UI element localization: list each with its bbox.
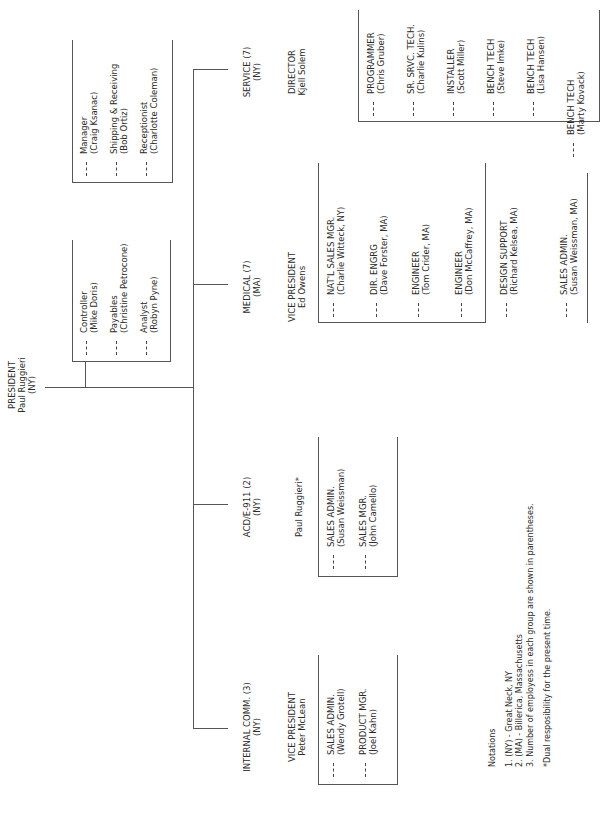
staff-entry: ENGINEER(Tom Crider, MA) (412, 224, 432, 317)
staff-entry: ENGINEER(Don McCaffrey, MA) (455, 207, 475, 317)
staff-entry: INSTALLER(Scott Miller) (447, 40, 467, 116)
division-location: (NY) (253, 17, 263, 127)
division-spine (193, 69, 194, 729)
dash-marker (146, 162, 147, 176)
division-location: (NY) (253, 452, 263, 562)
branch-acd (193, 504, 228, 505)
division-service-box (358, 10, 600, 122)
division-acd-header: ACD/E-911 (2) (NY) (243, 452, 263, 562)
president-location: (NY) (28, 345, 38, 425)
division-medical-head: VICE PRESIDENT Ed Owens (288, 232, 308, 342)
staff-entry: Receptionist(Charlotte Coleman) (140, 68, 160, 176)
staff-entry: PROGRAMMER(Chris Gruber) (367, 32, 387, 116)
notations-title: Notations (488, 503, 497, 767)
dash-marker (573, 143, 574, 157)
dash-marker (333, 555, 334, 569)
staff-entry: BENCH TECH(Marty Kovack) (567, 71, 587, 157)
staff-entry: SALES ADMIN.(Susan Weissman, MA) (560, 198, 580, 317)
staff-entry: SR. SRVC. TECH.(Charlie Kulins) (407, 24, 427, 116)
dash-marker (86, 162, 87, 176)
notation-item: 1. (NY) - Great Neck, NY (505, 503, 514, 767)
staff-entry: SALES ADMIN.(Susan Weissman) (327, 469, 347, 569)
division-internal-head: VICE PRESIDENT Peter McLean (288, 672, 308, 782)
division-location: (NY) (253, 672, 263, 782)
staff-entry: DESIGN SUPPORT(Richard Kelsea, MA) (500, 207, 520, 317)
dash-marker (116, 341, 117, 355)
admin-connector (85, 362, 86, 388)
dash-marker (373, 102, 374, 116)
staff-entry: Manager(Craig Ksanac) (80, 92, 100, 176)
staff-entry: NAT'L SALES MGR.(Charlie Witteck, NY) (327, 207, 347, 317)
dash-marker (533, 102, 534, 116)
notations: Notations 1. (NY) - Great Neck, NY 2. (M… (488, 503, 553, 767)
footnote: *Dual resposibility for the present time… (543, 503, 552, 767)
staff-entry: Controller(Mike Doris) (80, 282, 100, 355)
dash-marker (365, 763, 366, 777)
dash-marker (418, 303, 419, 317)
dash-marker (365, 555, 366, 569)
division-service-header: SERVICE (7) (NY) (243, 17, 263, 127)
dash-marker (453, 102, 454, 116)
staff-entry: Payables(Christine Petrocone) (110, 243, 130, 355)
org-chart: PRESIDENT Paul Ruggieri (NY) Controller(… (0, 0, 602, 817)
notation-item: 2. (MA) - Billerica, Massachusetts (515, 503, 524, 767)
dash-marker (86, 341, 87, 355)
staff-entry: PRODUCT MGR.(Joel Kahn) (359, 688, 379, 777)
branch-service (193, 69, 228, 70)
dash-marker (461, 303, 462, 317)
dash-marker (146, 341, 147, 355)
staff-entry: Analyst(Robyn Pyne) (140, 276, 160, 355)
staff-entry: BENCH TECH(Lisa Hansen) (527, 36, 547, 116)
branch-internal (193, 728, 228, 729)
dash-marker (493, 102, 494, 116)
dash-marker (506, 303, 507, 317)
dash-marker (566, 303, 567, 317)
dash-marker (413, 102, 414, 116)
president-block: PRESIDENT Paul Ruggieri (NY) (8, 345, 37, 425)
dash-marker (333, 303, 334, 317)
dash-marker (333, 763, 334, 777)
division-acd-head: Paul Ruggieri* (295, 452, 305, 562)
branch-medical (193, 284, 228, 285)
division-medical-header: MEDICAL (7) (MA) (243, 232, 263, 342)
division-internal-header: INTERNAL COMM. (3) (NY) (243, 672, 263, 782)
division-location: (MA) (253, 232, 263, 342)
president-connector (45, 387, 193, 388)
staff-entry: SALES MGR.(John Camello) (359, 485, 379, 569)
staff-entry: SALES ADMIN.(Wendy Grotell) (327, 688, 347, 777)
notation-item: 3. Number of employess in each group are… (526, 503, 535, 767)
staff-entry: DIR. ENGRG(Dave Forster, MA) (370, 215, 390, 317)
division-service-head: DIRECTOR Kjell Solem (288, 17, 308, 127)
dash-marker (116, 162, 117, 176)
staff-entry: Shipping & Receiving(Bob Ortiz) (110, 64, 130, 176)
dash-marker (376, 303, 377, 317)
medical-sales-underline (587, 173, 588, 323)
staff-entry: BENCH TECH(Steve Imke) (487, 39, 507, 116)
